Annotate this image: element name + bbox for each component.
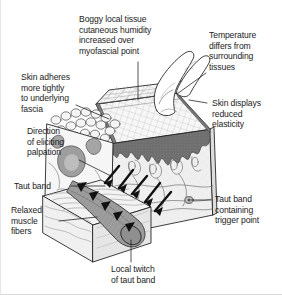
label-direction-of-eliciting-palpation: Direction of eliciting palpation (27, 126, 64, 158)
label-skin-displays-reduced-elasticity: Skin displays reduced elasticity (212, 98, 261, 130)
label-relaxed-muscle-fibers: Relaxed muscle fibers (11, 205, 42, 237)
label-taut-band: Taut band (14, 181, 51, 192)
label-temperature-differs: Temperature differs from surrounding tis… (209, 30, 256, 72)
anatomical-figure: Boggy local tissue cutaneous humidity in… (0, 0, 282, 295)
label-taut-band-containing-trigger-point: Taut band containing trigger point (215, 194, 259, 226)
label-boggy-local-tissue: Boggy local tissue cutaneous humidity in… (79, 14, 151, 56)
label-local-twitch-of-taut-band: Local twitch of taut band (111, 264, 155, 285)
label-skin-adheres: Skin adheres more tightly to underlying … (21, 72, 70, 114)
